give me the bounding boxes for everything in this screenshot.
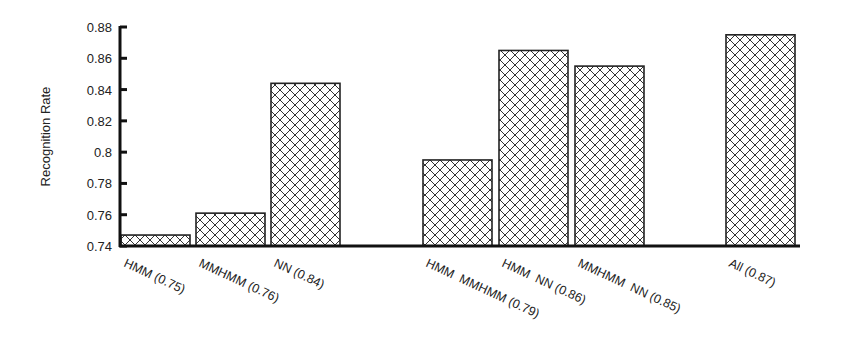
x-category-label: NN (0.84)	[272, 256, 327, 292]
category-labels: HMM (0.75)MMHMM (0.76)NN (0.84)HMM MMHMM…	[122, 256, 778, 321]
y-tick-label: 0.78	[87, 176, 112, 191]
bars	[121, 35, 795, 246]
x-category-label: MMHMM (0.76)	[197, 256, 282, 305]
y-axis-title-group: Recognition Rate	[38, 87, 53, 187]
x-category-label: HMM (0.75)	[122, 256, 188, 297]
y-tick-label: 0.76	[87, 208, 112, 223]
y-tick-label: 0.74	[87, 239, 112, 254]
bar	[196, 213, 265, 246]
y-axis-title: Recognition Rate	[38, 87, 53, 187]
y-tick-label: 0.84	[87, 83, 112, 98]
bar	[726, 35, 795, 246]
x-category-label: MMHMM NN (0.85)	[576, 256, 683, 316]
bar	[423, 160, 492, 246]
bar	[271, 83, 340, 246]
y-tick-label: 0.8	[94, 145, 112, 160]
y-tick-label: 0.86	[87, 51, 112, 66]
y-tick-label: 0.88	[87, 20, 112, 35]
x-category-label: All (0.87)	[727, 256, 778, 290]
bar	[499, 50, 568, 246]
y-tick-label: 0.82	[87, 114, 112, 129]
bar	[575, 66, 644, 246]
bar	[121, 235, 190, 246]
bar-chart: Recognition Rate 0.740.760.780.80.820.84…	[0, 0, 852, 358]
